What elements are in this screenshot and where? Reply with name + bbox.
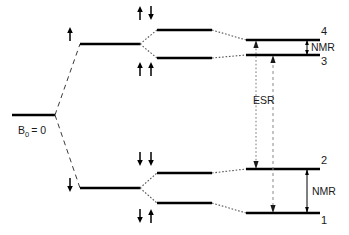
upper-hyperfine-levels [137, 6, 212, 76]
lower-hyperfine-connector-bottom [140, 188, 157, 203]
lower-hyperfine-levels [137, 152, 212, 223]
spin-pair-down-down [137, 152, 154, 166]
esr-transition-group: ESR [253, 40, 276, 213]
zero-field-label-b: B [18, 124, 25, 136]
zero-field-label-subscript: 0 [25, 130, 29, 139]
up-arrow-icon [67, 27, 73, 41]
upper-hyperfine-connector-top [140, 30, 157, 44]
lower-hyperfine-connector-top [140, 173, 157, 188]
down-arrow-icon [148, 6, 154, 20]
lower-electron-branch [67, 178, 140, 192]
level-3-label: 3 [321, 55, 327, 67]
upper-final-connector-bottom [212, 55, 246, 58]
energy-level-diagram: B0= 0 [0, 0, 349, 235]
down-arrow-icon [137, 152, 143, 166]
level-1-label: 1 [321, 214, 327, 226]
up-arrow-icon [137, 62, 143, 76]
zeeman-split-connectors [55, 44, 80, 188]
nmr-upper-label: NMR [311, 41, 335, 53]
zero-field-group: B0= 0 [12, 115, 55, 139]
upper-final-connector-top [212, 30, 246, 40]
esr-label: ESR [253, 94, 275, 106]
down-arrow-icon [148, 152, 154, 166]
level-4-label: 4 [321, 25, 327, 37]
nmr-lower-label: NMR [312, 185, 336, 197]
upper-hyperfine-connector-bottom [140, 44, 157, 58]
lower-final-connectors [212, 169, 246, 213]
spin-pair-up-up [137, 62, 154, 76]
diagram-canvas: B0= 0 [0, 0, 349, 235]
zeeman-connector-upper [55, 44, 80, 115]
upper-hyperfine-connectors [140, 30, 157, 58]
lower-hyperfine-connectors [140, 173, 157, 203]
upper-electron-branch [67, 27, 140, 44]
up-arrow-icon [148, 209, 154, 223]
level-2-label: 2 [321, 154, 327, 166]
spin-pair-down-up [137, 209, 154, 223]
down-arrow-icon [67, 178, 73, 192]
zero-field-label-suffix: = 0 [31, 124, 46, 136]
upper-final-connectors [212, 30, 246, 58]
spin-pair-up-down [137, 6, 154, 20]
nmr-lower-transition-group: NMR [305, 169, 336, 213]
zeeman-connector-lower [55, 115, 80, 188]
nmr-upper-transition-group: NMR [305, 40, 335, 55]
down-arrow-icon [137, 209, 143, 223]
up-arrow-icon [148, 62, 154, 76]
lower-final-connector-top [212, 169, 246, 173]
up-arrow-icon [137, 6, 143, 20]
lower-final-connector-bottom [212, 203, 246, 213]
zero-field-label: B0= 0 [18, 124, 46, 139]
